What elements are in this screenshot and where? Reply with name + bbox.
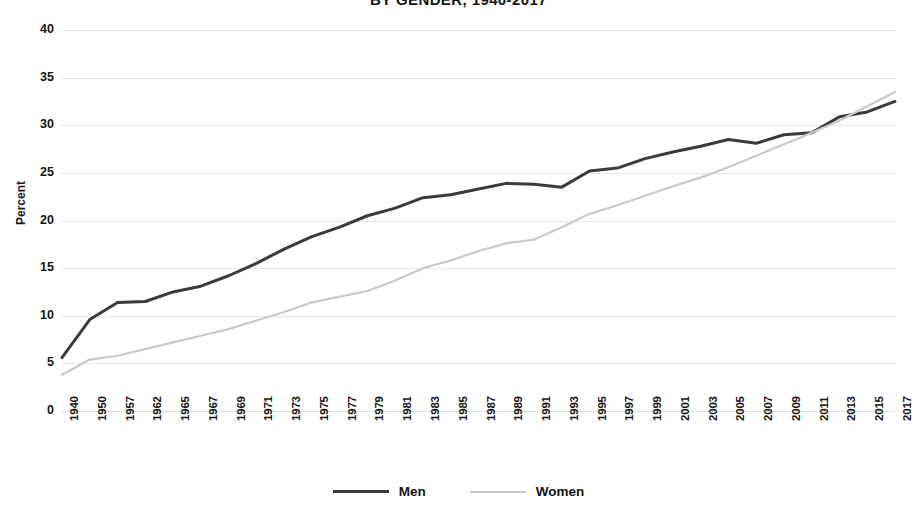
legend-item-women[interactable]: Women (470, 484, 585, 499)
series-line-men (62, 101, 895, 357)
line-chart: BY GENDER, 1940-2017 Percent 05101520253… (0, 0, 917, 510)
chart-legend: MenWomen (0, 484, 917, 499)
legend-swatch-icon (333, 490, 389, 493)
legend-item-men[interactable]: Men (333, 484, 426, 499)
legend-label: Men (399, 484, 426, 499)
legend-label: Women (536, 484, 585, 499)
legend-swatch-icon (470, 491, 526, 493)
series-line-women (62, 92, 895, 375)
plot-area (0, 0, 917, 510)
